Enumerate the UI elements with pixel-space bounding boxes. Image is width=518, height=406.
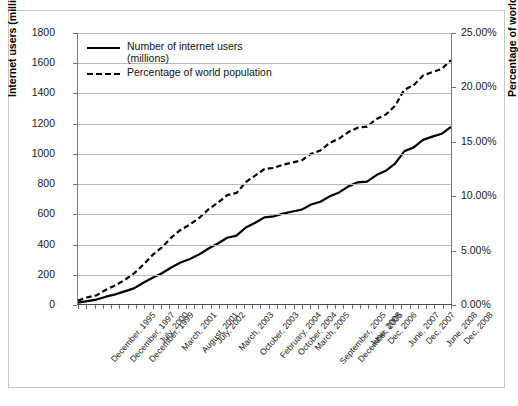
x-axis-tickmark bbox=[202, 305, 203, 309]
y-axis-right-tick-label: 5.00% bbox=[461, 245, 491, 255]
y-axis-left-tick-label: 400 bbox=[37, 239, 55, 249]
series-line-2 bbox=[78, 60, 451, 300]
x-axis-tickmark bbox=[78, 305, 79, 309]
x-axis-tickmark bbox=[393, 305, 394, 309]
y-axis-left-tick-label: 1800 bbox=[32, 27, 55, 37]
gridline bbox=[77, 184, 452, 185]
legend-label: Percentage of world population bbox=[127, 66, 272, 78]
y-axis-right-tickmark bbox=[452, 196, 456, 197]
y-axis-right-tick-label: 20.00% bbox=[461, 81, 497, 91]
gridline bbox=[77, 275, 452, 276]
y-axis-left-tick-label: 200 bbox=[37, 269, 55, 279]
legend-label: Number of internet users(millions) bbox=[127, 40, 243, 64]
y-axis-right-tickmark bbox=[452, 251, 456, 252]
x-axis-tickmark bbox=[186, 305, 187, 309]
gridline bbox=[77, 124, 452, 125]
x-axis-tickmark bbox=[236, 305, 237, 309]
x-axis-tickmark bbox=[426, 305, 427, 309]
axis-line-left bbox=[77, 33, 78, 305]
y-axis-left-tick-label: 1600 bbox=[32, 57, 55, 67]
y-axis-right-tick-label: 15.00% bbox=[461, 136, 497, 146]
x-axis-tickmark bbox=[128, 305, 129, 309]
x-axis-tickmark bbox=[169, 305, 170, 309]
x-axis-tickmark bbox=[401, 305, 402, 309]
x-axis-tickmark bbox=[219, 305, 220, 309]
x-axis-tickmark bbox=[252, 305, 253, 309]
gridline bbox=[77, 214, 452, 215]
x-axis-tickmark bbox=[227, 305, 228, 309]
x-axis-tickmark bbox=[260, 305, 261, 309]
x-axis-tickmark bbox=[352, 305, 353, 309]
x-axis-tickmark bbox=[335, 305, 336, 309]
y-axis-left-tick-label: 600 bbox=[37, 208, 55, 218]
x-axis-tickmark bbox=[244, 305, 245, 309]
x-axis-tickmark bbox=[161, 305, 162, 309]
legend-key-dashed bbox=[87, 73, 120, 75]
x-axis-tickmark bbox=[136, 305, 137, 309]
gridline bbox=[77, 93, 452, 94]
y-axis-left-title: Internet users (millions) bbox=[6, 0, 18, 97]
legend-key-solid bbox=[87, 47, 120, 49]
x-axis-tickmark bbox=[119, 305, 120, 309]
x-axis-tickmark bbox=[269, 305, 270, 309]
gridline bbox=[77, 245, 452, 246]
y-axis-left-tick-label: 1000 bbox=[32, 148, 55, 158]
x-axis-tickmark bbox=[294, 305, 295, 309]
x-axis-tickmark bbox=[434, 305, 435, 309]
x-axis-tickmark bbox=[318, 305, 319, 309]
x-axis-tickmark bbox=[410, 305, 411, 309]
x-axis-tickmark bbox=[376, 305, 377, 309]
y-axis-left-tickmark bbox=[73, 305, 77, 306]
y-axis-right-tickmark bbox=[452, 33, 456, 34]
x-axis-tickmark bbox=[327, 305, 328, 309]
x-axis-tickmark bbox=[285, 305, 286, 309]
x-axis-tickmark bbox=[418, 305, 419, 309]
axis-line-bottom bbox=[77, 304, 452, 305]
chart-frame: Internet users (millions) Percentage of … bbox=[8, 10, 505, 388]
y-axis-right-tickmark bbox=[452, 142, 456, 143]
y-axis-left-tick-label: 0 bbox=[49, 299, 55, 309]
y-axis-left-tick-label: 800 bbox=[37, 178, 55, 188]
x-axis-tickmark bbox=[443, 305, 444, 309]
y-axis-left-tick-label: 1400 bbox=[32, 87, 55, 97]
gridline bbox=[77, 154, 452, 155]
y-axis-right-tickmark bbox=[452, 87, 456, 88]
x-axis-tickmark bbox=[111, 305, 112, 309]
y-axis-right-tick-label: 0.00% bbox=[461, 299, 491, 309]
y-axis-right-tick-label: 10.00% bbox=[461, 190, 497, 200]
x-axis-tickmark bbox=[178, 305, 179, 309]
x-axis-tickmark bbox=[95, 305, 96, 309]
x-axis-tickmark bbox=[310, 305, 311, 309]
x-axis-tickmark bbox=[385, 305, 386, 309]
y-axis-right-tick-label: 25.00% bbox=[461, 27, 497, 37]
x-axis-tickmark bbox=[368, 305, 369, 309]
y-axis-right-tickmark bbox=[452, 305, 456, 306]
x-axis-tickmark bbox=[153, 305, 154, 309]
x-axis-tickmark bbox=[103, 305, 104, 309]
x-axis-tickmark bbox=[302, 305, 303, 309]
y-axis-right-title: Percentage of world population (%) bbox=[506, 0, 518, 97]
y-axis-left-tick-label: 1200 bbox=[32, 118, 55, 128]
x-axis-tickmark bbox=[360, 305, 361, 309]
x-axis-tickmark bbox=[144, 305, 145, 309]
x-axis-tickmark bbox=[86, 305, 87, 309]
x-axis-tickmark bbox=[451, 305, 452, 309]
x-axis-tickmark bbox=[194, 305, 195, 309]
gridline bbox=[77, 33, 452, 34]
axis-line-right bbox=[451, 33, 452, 305]
plot-area: Number of internet users(millions)Percen… bbox=[77, 33, 452, 305]
x-axis-tickmark bbox=[343, 305, 344, 309]
x-axis-tickmark bbox=[211, 305, 212, 309]
x-axis-tickmark bbox=[277, 305, 278, 309]
